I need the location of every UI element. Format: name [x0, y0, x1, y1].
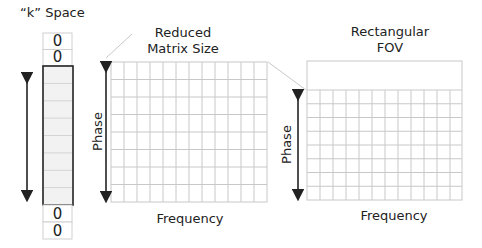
- kspace-zero-bottom-2: 0: [43, 223, 72, 239]
- rect-fov-title-line2: FOV: [345, 40, 435, 55]
- kspace-title: “k” Space: [20, 5, 85, 20]
- rect-fov-phase-label: Phase: [279, 120, 294, 170]
- kspace-zero-top-1: 0: [43, 33, 72, 49]
- rect-fov-frequency-label: Frequency: [344, 208, 444, 223]
- reduced-matrix-grid: [111, 62, 267, 202]
- rectangular-fov-grid: [307, 61, 462, 200]
- kspace-zero-bottom-1: 0: [43, 206, 72, 222]
- rect-fov-title-line1: Rectangular: [345, 24, 435, 39]
- reduced-matrix-phase-label: Phase: [90, 107, 105, 157]
- kspace-zero-top-2: 0: [43, 49, 72, 65]
- reduced-matrix-title-line2: Matrix Size: [138, 41, 228, 56]
- reduced-matrix-frequency-label: Frequency: [140, 211, 240, 226]
- reduced-matrix-title-line1: Reduced: [138, 25, 228, 40]
